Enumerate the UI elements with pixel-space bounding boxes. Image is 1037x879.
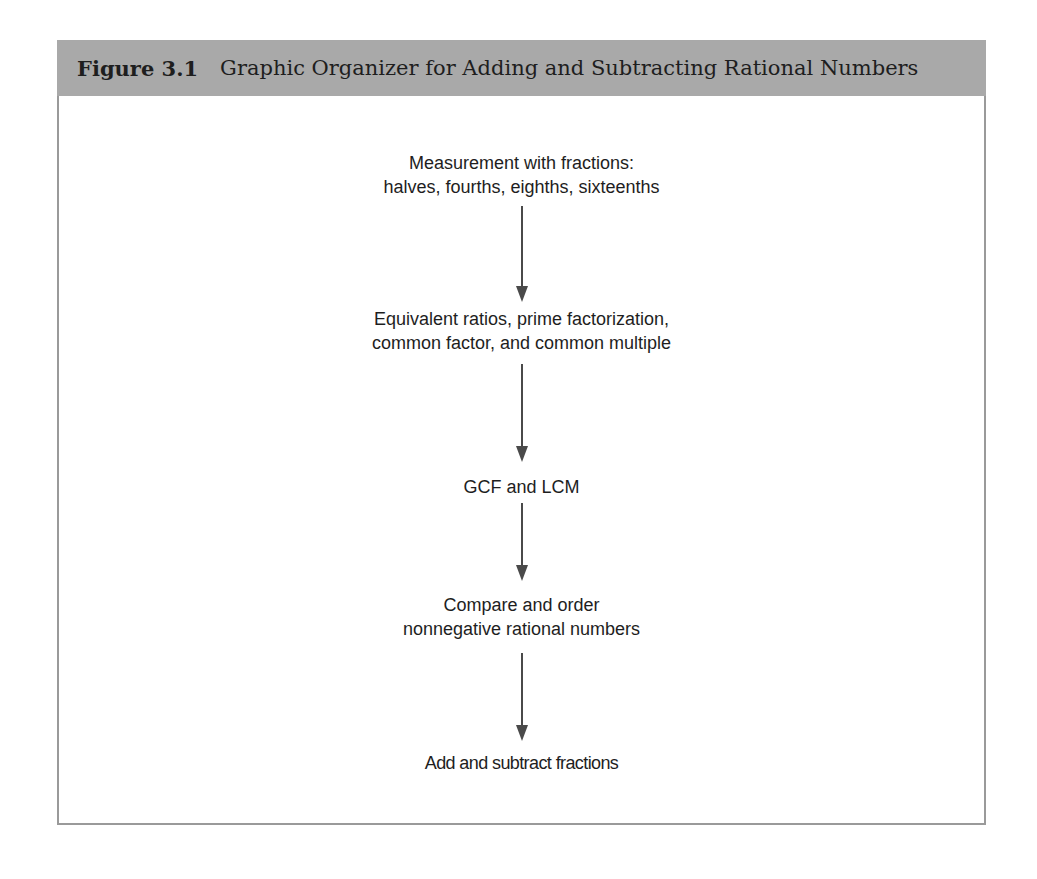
down-arrow-icon [514, 364, 530, 462]
figure-title: Graphic Organizer for Adding and Subtrac… [220, 56, 918, 80]
down-arrow-icon [514, 503, 530, 581]
down-arrow-icon [514, 206, 530, 302]
figure-number: Figure 3.1 [77, 56, 198, 81]
node-line: halves, fourths, eighths, sixteenths [57, 175, 986, 199]
node-line: GCF and LCM [57, 475, 986, 499]
node-line: Equivalent ratios, prime factorization, [57, 307, 986, 331]
figure-caption-bar: Figure 3.1 Graphic Organizer for Adding … [57, 40, 986, 96]
flow-node-measurement: Measurement with fractions: halves, four… [57, 151, 986, 199]
flow-node-add-subtract: Add and subtract fractions [57, 751, 986, 775]
node-line: Measurement with fractions: [57, 151, 986, 175]
node-line: Add and subtract fractions [57, 751, 986, 775]
flow-node-gcf-lcm: GCF and LCM [57, 475, 986, 499]
flow-node-compare-order: Compare and order nonnegative rational n… [57, 593, 986, 641]
down-arrow-icon [514, 653, 530, 741]
flow-node-equivalent-ratios: Equivalent ratios, prime factorization, … [57, 307, 986, 355]
node-line: nonnegative rational numbers [57, 617, 986, 641]
node-line: Compare and order [57, 593, 986, 617]
node-line: common factor, and common multiple [57, 331, 986, 355]
